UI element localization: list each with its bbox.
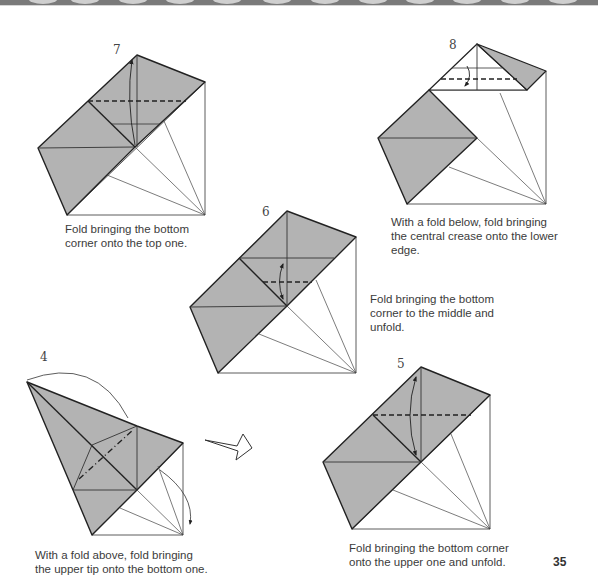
step-4-caption: With a fold above, fold bringing the upp… [35, 548, 208, 576]
step-number-5: 5 [397, 357, 405, 371]
step-number-8: 8 [449, 38, 457, 52]
step-4-diagram [27, 373, 191, 535]
step-number-6: 6 [262, 205, 270, 219]
step-number-7: 7 [113, 43, 121, 57]
turn-over-arrow-icon [205, 434, 252, 460]
page-number: 35 [553, 555, 566, 569]
step-5-diagram [323, 367, 490, 529]
step-8-diagram [378, 44, 546, 204]
step-7-caption: Fold bringing the bottom corner onto the… [65, 222, 189, 250]
step-number-4: 4 [40, 350, 48, 364]
step-5-caption: Fold bringing the bottom corner onto the… [349, 541, 509, 569]
step-6-caption: Fold bringing the bottom corner to the m… [370, 292, 494, 334]
step-6-diagram [190, 211, 356, 373]
step-8-caption: With a fold below, fold bringing the cen… [391, 215, 558, 257]
step-7-diagram [38, 55, 205, 215]
diagram-canvas [0, 0, 598, 586]
